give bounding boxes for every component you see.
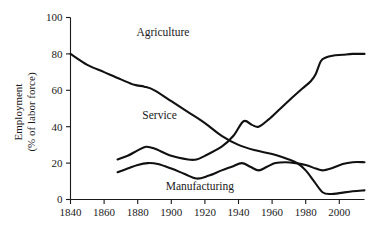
- y-tick-label: 80: [52, 48, 64, 60]
- x-tick-label: 1900: [160, 206, 183, 218]
- y-axis-title-line2: (% of labor force): [25, 72, 38, 151]
- x-tick-label: 1980: [295, 206, 318, 218]
- employment-line-chart: Employment (% of labor force) 0204060801…: [0, 0, 377, 241]
- data-series-group: [71, 54, 365, 194]
- series-label-manufacturing: Manufacturing: [166, 180, 235, 193]
- x-tick-label: 1880: [127, 206, 150, 218]
- x-tick-label: 1940: [228, 206, 251, 218]
- x-tick-label: 1920: [194, 206, 217, 218]
- y-tick-label: 20: [52, 157, 64, 169]
- y-axis-title: Employment (% of labor force): [12, 72, 38, 151]
- y-axis-ticks: 020406080100: [46, 11, 71, 205]
- y-axis-title-line1: Employment: [12, 84, 24, 141]
- series-line-service: [118, 54, 365, 160]
- x-tick-label: 1840: [60, 206, 83, 218]
- x-tick-label: 2000: [328, 206, 351, 218]
- y-tick-label: 40: [52, 121, 64, 133]
- series-line-manufacturing: [118, 162, 365, 179]
- chart-figure: Employment (% of labor force) 0204060801…: [0, 0, 377, 241]
- x-tick-label: 1860: [93, 206, 116, 218]
- series-label-service: Service: [142, 109, 176, 121]
- x-tick-label: 1960: [261, 206, 284, 218]
- y-tick-label: 60: [52, 84, 64, 96]
- x-axis-ticks: 184018601880190019201940196019802000: [60, 200, 351, 218]
- y-tick-label: 100: [46, 11, 63, 23]
- series-label-agriculture: Agriculture: [136, 26, 189, 39]
- y-tick-label: 0: [57, 193, 63, 205]
